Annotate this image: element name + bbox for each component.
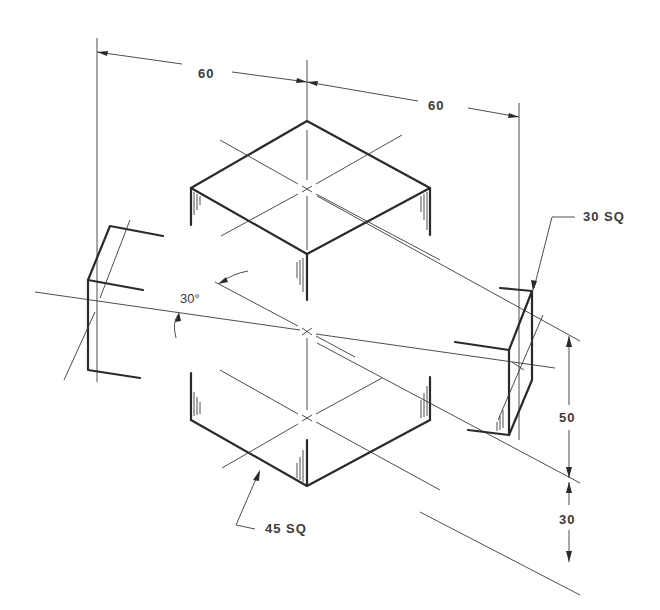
dimension-label-30-sq: 30 SQ [581,209,627,224]
angle-label: 30° [178,291,202,306]
dimension-label-60-right: 60 [426,98,446,113]
dimension-vertical [566,336,572,562]
extension-lines [97,38,580,595]
top-square [191,121,440,300]
right-square [455,217,575,435]
dimension-label-30: 30 [557,512,577,527]
dimension-label-60-left: 60 [196,66,216,81]
dimension-label-50: 50 [557,410,577,425]
left-square [64,220,163,380]
bottom-square [191,370,440,529]
dimension-60-right [307,81,519,118]
dimension-label-45-sq: 45 SQ [263,521,309,536]
